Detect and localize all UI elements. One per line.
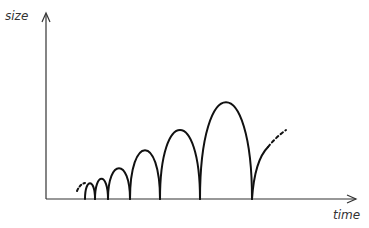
tail-dashed <box>268 130 286 147</box>
y-axis-label: size <box>5 9 28 23</box>
arch-2 <box>95 179 108 199</box>
arch-4 <box>130 150 160 199</box>
arches <box>77 102 286 199</box>
arch-1 <box>85 183 95 199</box>
x-axis-label: time <box>333 208 360 222</box>
lead-in-dashed <box>77 183 85 191</box>
tail-solid <box>252 147 268 199</box>
cycle-growth-diagram <box>0 0 369 228</box>
arch-5 <box>160 130 200 199</box>
arch-6 <box>200 102 252 199</box>
arch-3 <box>108 168 130 199</box>
